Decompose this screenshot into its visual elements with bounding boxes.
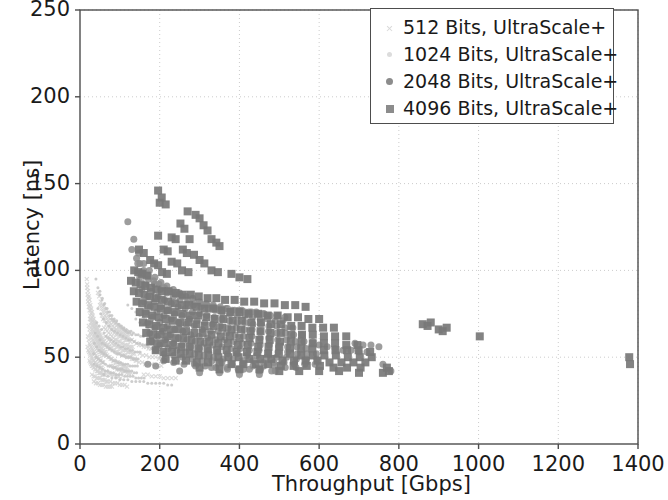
legend-entry[interactable]: 4096 Bits, UltraScale+: [371, 94, 613, 121]
legend-entry[interactable]: 512 Bits, UltraScale+: [371, 13, 613, 40]
y-axis-title: Latency [ns]: [20, 160, 44, 290]
x-tick-label: 1400: [608, 452, 668, 476]
legend-label: 4096 Bits, UltraScale+: [403, 97, 618, 119]
x-tick-label: 400: [209, 452, 269, 476]
y-tick-label: 200: [0, 84, 70, 108]
x-axis-title: Throughput [Gbps]: [272, 472, 471, 496]
legend-entry[interactable]: 1024 Bits, UltraScale+: [371, 40, 613, 67]
legend-label: 1024 Bits, UltraScale+: [403, 43, 618, 65]
y-tick-label: 50: [0, 344, 70, 368]
legend-entry[interactable]: 2048 Bits, UltraScale+: [371, 67, 613, 94]
legend-label: 2048 Bits, UltraScale+: [403, 70, 618, 92]
square-marker-icon: [377, 98, 403, 118]
x-tick-label: 200: [130, 452, 190, 476]
dot-marker-icon: [377, 44, 403, 64]
legend-label: 512 Bits, UltraScale+: [403, 16, 606, 38]
y-tick-label: 0: [0, 431, 70, 455]
x-tick-label: 0: [50, 452, 110, 476]
x-marker-icon: [377, 17, 403, 37]
chart-legend: 512 Bits, UltraScale+1024 Bits, UltraSca…: [370, 8, 614, 124]
y-tick-label: 250: [0, 0, 70, 21]
circle-marker-icon: [377, 71, 403, 91]
x-tick-label: 1200: [528, 452, 588, 476]
